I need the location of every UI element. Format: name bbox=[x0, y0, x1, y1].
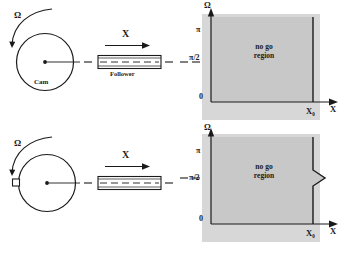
displacement-arrow-head-icon bbox=[142, 42, 150, 48]
omega-axis-label-top: Ω bbox=[204, 0, 211, 10]
cam-follower-drawing-bottom bbox=[0, 128, 180, 256]
no-go-region-shape-bottom bbox=[211, 137, 325, 224]
no-go-line-1-bottom: no go bbox=[255, 162, 272, 171]
ytick-zero-bottom: 0 bbox=[199, 214, 203, 223]
no-go-chart-bottom bbox=[180, 128, 347, 256]
ytick-zero-top: 0 bbox=[199, 92, 203, 101]
ytick-pi-over-2-bottom: π/2 bbox=[189, 173, 200, 182]
no-go-region-label-bottom: no go region bbox=[240, 162, 288, 180]
no-go-line-2-bottom: region bbox=[254, 171, 274, 180]
figure-canvas: Ω Cam Follower X Ω π π/2 0 no go bbox=[0, 0, 347, 256]
panel-top-right-chart: Ω π π/2 0 no go region X₀ X bbox=[180, 0, 347, 128]
x0-label-bottom: X₀ bbox=[306, 228, 315, 238]
displacement-arrow-head-icon-bottom bbox=[142, 163, 150, 169]
x-axis-label-bottom: X bbox=[330, 226, 336, 236]
no-go-region-label-top: no go region bbox=[240, 42, 288, 60]
no-go-chart-top bbox=[180, 0, 347, 128]
follower-body-bottom bbox=[98, 177, 161, 190]
panel-top-left-cam-schematic: Ω Cam Follower X bbox=[0, 0, 180, 128]
omega-label-bottom-left: Ω bbox=[14, 138, 21, 148]
panel-bottom-right-chart: Ω π π/2 0 no go region X₀ X bbox=[180, 128, 347, 256]
omega-label-top-left: Ω bbox=[14, 10, 21, 20]
cam-follower-drawing-top bbox=[0, 0, 180, 128]
x0-label-top: X₀ bbox=[306, 106, 315, 116]
x-axis-label-top: X bbox=[330, 104, 336, 114]
ytick-pi-top: π bbox=[196, 25, 200, 34]
cam-label: Cam bbox=[34, 78, 48, 86]
ytick-pi-over-2-top: π/2 bbox=[189, 53, 200, 62]
omega-axis-label-bottom: Ω bbox=[204, 122, 211, 132]
displacement-label-bottom: X bbox=[122, 149, 129, 160]
ytick-pi-bottom: π bbox=[196, 146, 200, 155]
follower-label: Follower bbox=[110, 70, 135, 77]
panel-bottom-left-cam-schematic: Ω X bbox=[0, 128, 180, 256]
follower-body bbox=[98, 56, 161, 69]
rotation-arrow-head-icon-bottom bbox=[9, 170, 15, 177]
no-go-line-2: region bbox=[254, 51, 274, 60]
no-go-line-1: no go bbox=[255, 42, 272, 51]
cam-lobe-pin bbox=[13, 179, 20, 186]
rotation-arrow-head-icon bbox=[9, 42, 15, 49]
displacement-label-top: X bbox=[122, 28, 129, 39]
